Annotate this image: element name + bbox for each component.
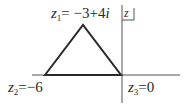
- plane-label: z: [123, 6, 129, 20]
- triangle: [45, 25, 121, 75]
- complex-plane-diagram: z z1= −3+4i z2=−6 z3=0: [0, 0, 189, 108]
- z2-label: z2=−6: [7, 79, 43, 97]
- plane-label-box: z: [122, 6, 134, 20]
- z1-label: z1= −3+4i: [50, 5, 110, 23]
- z3-label: z3=0: [127, 79, 154, 97]
